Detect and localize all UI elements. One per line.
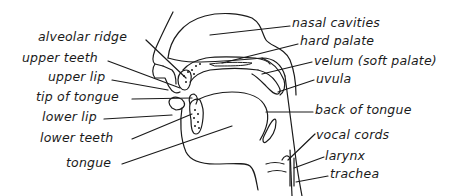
hard-palate-lower <box>190 69 258 83</box>
label-velum: velum (soft palate) <box>314 55 437 68</box>
velum-upper <box>262 58 285 95</box>
label-nasal-cavities: nasal cavities <box>292 17 380 30</box>
leader-tongue <box>122 126 232 164</box>
jaw-outline <box>181 108 258 190</box>
lower-teeth-shape <box>190 99 204 134</box>
nose-outline <box>153 12 173 66</box>
label-alveolar-ridge: alveolar ridge <box>38 31 127 44</box>
palate-bone <box>210 62 252 66</box>
label-upper-lip: upper lip <box>48 71 105 84</box>
label-upper-teeth: upper teeth <box>22 52 98 65</box>
label-vocal-cords: vocal cords <box>316 129 389 142</box>
upper-lip-inner <box>163 66 176 84</box>
leader-tip-of-tongue <box>132 98 192 99</box>
label-tongue: tongue <box>66 157 111 170</box>
label-trachea: trachea <box>330 168 379 181</box>
leader-trachea <box>296 176 328 182</box>
label-hard-palate: hard palate <box>300 35 374 48</box>
tongue-shape <box>197 92 268 140</box>
label-tip-of-tongue: tip of tongue <box>36 91 119 104</box>
leader-upper-lip <box>112 80 168 90</box>
larynx-lower <box>268 171 286 173</box>
leader-larynx <box>294 157 324 168</box>
larynx-outer <box>266 163 284 165</box>
leader-hard-palate <box>222 44 298 63</box>
leader-lower-teeth <box>132 114 192 139</box>
label-uvula: uvula <box>316 73 351 86</box>
label-lower-teeth: lower teeth <box>40 132 113 145</box>
leader-vocal-cords <box>288 134 315 160</box>
lower-teeth-dots <box>193 109 200 129</box>
leader-lower-lip <box>104 115 172 119</box>
leader-alveolar-ridge <box>146 40 186 78</box>
leader-upper-teeth <box>108 61 180 88</box>
label-lower-lip: lower lip <box>42 111 97 124</box>
label-larynx: larynx <box>325 150 365 163</box>
label-back-of-tongue: back of tongue <box>315 104 412 117</box>
leader-nasal-cavities <box>210 26 290 35</box>
